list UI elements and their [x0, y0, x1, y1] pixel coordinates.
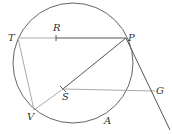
segment-SP [63, 38, 126, 89]
label-V: V [27, 111, 36, 122]
segment-VS [34, 89, 63, 110]
geometry-diagram: T R P S G V A [0, 0, 172, 134]
label-A: A [103, 115, 111, 126]
segment-SG [63, 89, 155, 91]
tangent-line [126, 38, 170, 130]
label-T: T [8, 32, 16, 43]
segment-TV [18, 38, 34, 110]
label-R: R [52, 22, 61, 33]
circle [13, 3, 133, 123]
label-G: G [156, 85, 164, 96]
label-S: S [62, 91, 69, 102]
label-P: P [127, 32, 135, 43]
